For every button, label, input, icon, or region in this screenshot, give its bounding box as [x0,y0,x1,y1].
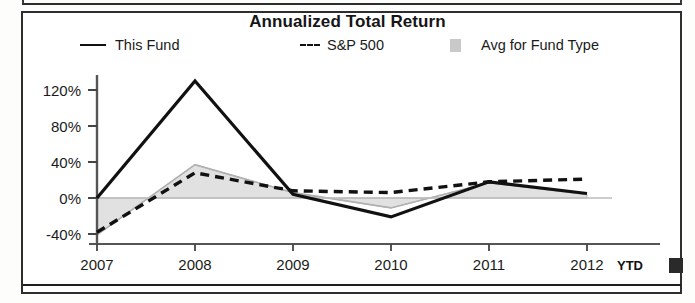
x-axis-label: 2012 [570,256,603,273]
legend-item-sp500[interactable]: S&P 500 [300,33,384,57]
chart-page: Annualized Total Return This Fund S&P 50… [0,0,695,303]
y-axis-label: 0% [19,190,81,207]
y-axis-label: 40% [19,154,81,171]
x-axis-label: 2008 [178,256,211,273]
chart-legend: This Fund S&P 500 Avg for Fund Type [80,33,680,57]
ytd-marker-block [669,258,683,273]
x-axis-label: 2009 [276,256,309,273]
x-axis-label: 2011 [473,256,505,273]
y-axis-label: 120% [19,82,81,99]
y-axis-label: -40% [19,226,81,243]
legend-item-this-fund[interactable]: This Fund [80,33,179,57]
x-axis-label: 2007 [80,256,113,273]
gray-swatch-icon [450,39,461,52]
ytd-label: YTD [617,258,643,273]
chart-title: Annualized Total Return [0,12,695,32]
legend-label-this-fund: This Fund [115,37,179,53]
solid-line-icon [80,44,106,46]
legend-label-avg-fund-type: Avg for Fund Type [481,37,599,53]
dashed-line-icon [300,44,320,46]
top-frame-divider [22,0,682,5]
legend-label-sp500: S&P 500 [327,37,384,53]
legend-item-avg-fund-type[interactable]: Avg for Fund Type [450,33,599,57]
bottom-rule [23,284,681,286]
y-axis-label: 80% [19,118,81,135]
x-axis-label: 2010 [374,256,407,273]
